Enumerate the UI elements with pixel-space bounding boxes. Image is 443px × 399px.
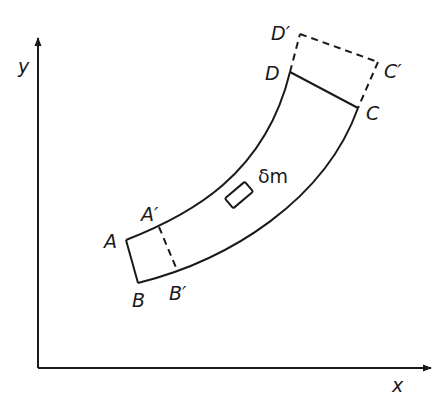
stream-tube — [126, 72, 358, 283]
x-axis-label: x — [391, 374, 404, 396]
edge-D-D-prime — [290, 34, 300, 72]
label-C-prime: C′ — [384, 60, 402, 82]
label-D: D — [265, 62, 280, 84]
label-B: B — [132, 289, 145, 311]
y-axis-label: y — [17, 55, 30, 77]
label-A: A — [102, 230, 117, 252]
edge-AB — [126, 240, 138, 283]
label-B-prime: B′ — [169, 282, 187, 304]
label-A-prime: A′ — [139, 203, 159, 225]
axes — [38, 38, 431, 368]
edge-A-prime-B-prime — [159, 227, 177, 270]
fluid-tube-diagram: y x A B A′ B′ D C D′ C′ δm — [0, 0, 443, 399]
edge-D-prime-C-prime — [300, 34, 378, 62]
edge-DC — [290, 72, 358, 108]
label-delta-m: δm — [258, 165, 288, 187]
label-C: C — [366, 102, 380, 124]
mass-element — [225, 182, 253, 209]
label-D-prime: D′ — [271, 22, 291, 44]
